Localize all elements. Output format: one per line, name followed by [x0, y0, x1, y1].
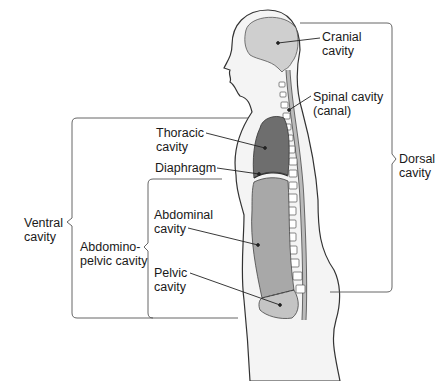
cranial-cavity-label: Cranial cavity	[322, 30, 362, 58]
dorsal-cavity-label: Dorsal cavity	[399, 152, 435, 180]
diaphragm-label: Diaphragm	[155, 161, 216, 175]
thoracic-cavity-label: Thoracic cavity	[156, 126, 204, 154]
abdominopelvic-cavity-label: Abdomino- pelvic cavity	[80, 240, 147, 268]
abdominopelvic-bracket	[144, 179, 222, 318]
spinal-cavity-label: Spinal cavity (canal)	[313, 90, 383, 118]
abdominal-cavity-label: Abdominal cavity	[154, 208, 213, 236]
pelvic-cavity-label: Pelvic cavity	[154, 266, 187, 294]
ventral-cavity-label: Ventral cavity	[24, 216, 63, 244]
abdominal-cavity-region	[252, 178, 294, 298]
body-cavities-diagram	[0, 0, 446, 381]
